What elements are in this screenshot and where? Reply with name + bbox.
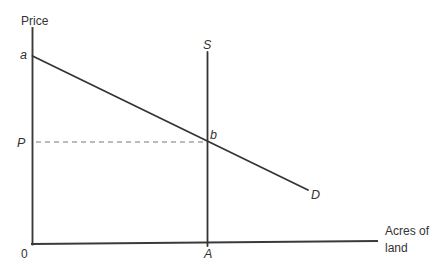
equilibrium-quantity-label: A (203, 247, 212, 261)
demand-intercept-label: a (20, 48, 27, 62)
x-axis (32, 241, 377, 244)
supply-curve-label: S (203, 38, 212, 52)
demand-curve-label: D (311, 188, 320, 202)
y-axis-label: Price (21, 14, 49, 28)
origin-label: 0 (21, 247, 28, 261)
x-axis-label-line1: Acres of (385, 224, 430, 238)
x-axis-label-line2: land (385, 241, 408, 255)
equilibrium-price-label: P (17, 136, 26, 150)
demand-curve (33, 56, 309, 190)
equilibrium-point-label: b (210, 128, 217, 142)
supply-demand-diagram: Price a S P b D A 0 Acres of land (0, 0, 440, 272)
diagram-canvas: Price a S P b D A 0 Acres of land (0, 0, 440, 272)
